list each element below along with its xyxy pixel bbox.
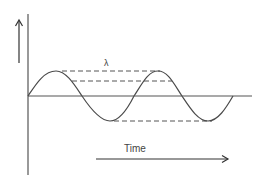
time-arrow-icon — [96, 156, 228, 163]
wavelength-label: λ — [104, 58, 109, 68]
up-arrow-icon — [16, 20, 23, 63]
wave-diagram: λ Time — [0, 0, 260, 181]
time-label: Time — [124, 143, 146, 154]
